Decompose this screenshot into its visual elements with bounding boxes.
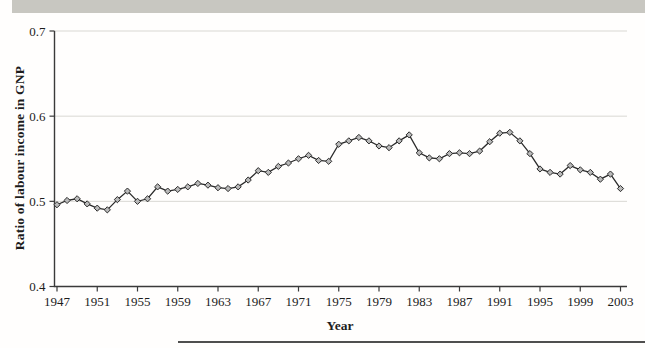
x-tick-label: 1983 (406, 294, 432, 309)
y-axis-title: Ratio of labour income in GNP (12, 18, 28, 298)
scanned-figure-page: 0.40.50.60.71947195119551959196319671971… (0, 0, 645, 348)
x-tick-label: 1991 (487, 294, 513, 309)
data-point-marker (376, 143, 382, 149)
x-tick-label: 1947 (44, 294, 71, 309)
x-tick-label: 1951 (84, 294, 110, 309)
data-point-marker (406, 132, 412, 138)
x-tick-label: 1967 (245, 294, 272, 309)
data-point-marker (547, 169, 553, 175)
data-point-marker (366, 138, 372, 144)
x-tick-label: 1975 (326, 294, 352, 309)
data-point-marker (265, 169, 271, 175)
x-tick-label: 1995 (527, 294, 553, 309)
y-tick-label: 0.5 (29, 194, 45, 209)
data-point-marker (64, 197, 70, 203)
labour-share-chart: 0.40.50.60.71947195119551959196319671971… (0, 0, 645, 348)
data-point-marker (446, 151, 452, 157)
data-point-marker (346, 138, 352, 144)
x-tick-label: 1971 (286, 294, 312, 309)
data-point-marker (336, 141, 342, 147)
data-point-marker (185, 184, 191, 190)
x-tick-label: 1979 (366, 294, 392, 309)
data-point-marker (305, 152, 311, 158)
y-tick-label: 0.6 (29, 109, 46, 124)
x-tick-label: 1963 (205, 294, 231, 309)
data-point-marker (165, 188, 171, 194)
data-point-marker (285, 160, 291, 166)
x-axis-title: Year (34, 318, 645, 334)
data-point-marker (466, 151, 472, 157)
x-tick-label: 1959 (165, 294, 191, 309)
y-tick-label: 0.4 (29, 279, 46, 294)
data-point-marker (215, 185, 221, 191)
data-point-marker (577, 167, 583, 173)
x-tick-label: 1955 (125, 294, 151, 309)
data-point-marker (175, 186, 181, 192)
data-point-marker (316, 157, 322, 163)
x-tick-label: 1987 (447, 294, 474, 309)
data-point-marker (94, 205, 100, 211)
data-point-marker (426, 155, 432, 161)
y-tick-label: 0.7 (29, 24, 46, 39)
data-point-marker (456, 150, 462, 156)
data-point-marker (416, 150, 422, 156)
data-point-marker (295, 156, 301, 162)
data-point-marker (225, 185, 231, 191)
x-tick-label: 2003 (608, 294, 634, 309)
data-point-marker (326, 158, 332, 164)
data-point-marker (356, 134, 362, 140)
data-point-marker (205, 182, 211, 188)
x-tick-label: 1999 (567, 294, 593, 309)
chart-canvas: 0.40.50.60.71947195119551959196319671971… (0, 0, 645, 348)
data-point-marker (436, 156, 442, 162)
data-point-marker (275, 163, 281, 169)
scan-bottom-rule (178, 341, 645, 343)
data-point-marker (195, 180, 201, 186)
